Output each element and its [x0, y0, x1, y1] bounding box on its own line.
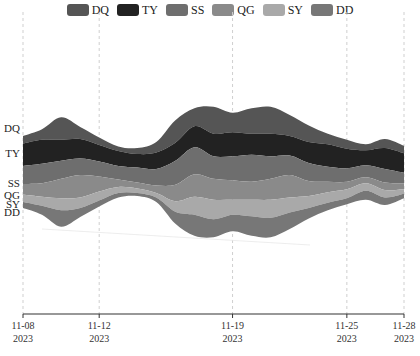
x-tick-label: 2023 [13, 333, 33, 344]
x-tick-label: 11-12 [88, 320, 111, 331]
series-label-dq: DQ [4, 122, 20, 134]
x-axis: 11-08202311-12202311-19202311-25202311-2… [12, 314, 416, 344]
series-label-ty: TY [5, 147, 20, 159]
x-tick-label: 11-28 [393, 320, 416, 331]
x-tick-label: 2023 [394, 333, 414, 344]
theme-river-chart: DQTYSSQGSYDD 11-08202311-12202311-192023… [0, 0, 420, 356]
x-tick-label: 11-19 [221, 320, 244, 331]
x-tick-label: 2023 [223, 333, 243, 344]
x-tick-label: 2023 [89, 333, 109, 344]
x-tick-label: 2023 [337, 333, 357, 344]
x-tick-label: 11-25 [335, 320, 358, 331]
series-labels: DQTYSSQGSYDD [4, 122, 20, 218]
x-tick-label: 11-08 [12, 320, 35, 331]
series-label-ss: SS [8, 177, 20, 189]
series-label-dd: DD [4, 206, 20, 218]
